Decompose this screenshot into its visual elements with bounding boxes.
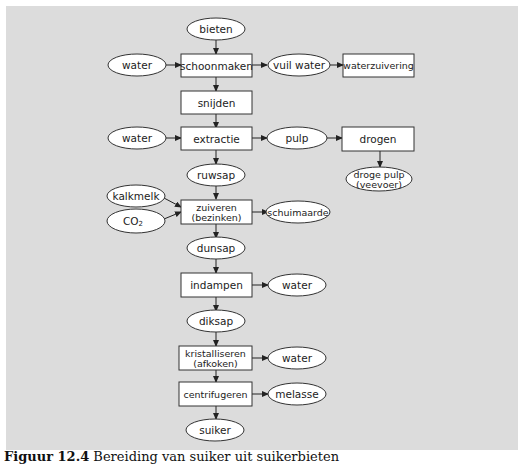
svg-text:schuimaarde: schuimaarde (267, 207, 329, 218)
svg-text:water: water (122, 59, 153, 71)
node-dunsap: dunsap (187, 237, 245, 259)
svg-text:drogen: drogen (360, 133, 397, 145)
svg-text:ruwsap: ruwsap (197, 169, 235, 181)
node-co2: CO2 (107, 209, 165, 233)
svg-text:(bezinken): (bezinken) (192, 212, 242, 223)
svg-text:dunsap: dunsap (197, 242, 236, 254)
node-waterzuivering: waterzuivering (343, 54, 414, 77)
figure-label: Figuur 12.4 (4, 449, 89, 464)
svg-text:bieten: bieten (199, 23, 232, 35)
node-water-input-2: water (108, 127, 166, 149)
svg-text:snijden: snijden (198, 97, 236, 109)
node-schoonmaken: schoonmaken (180, 54, 253, 77)
node-schuimaarde: schuimaarde (266, 201, 330, 223)
node-vuil-water: vuil water (268, 54, 330, 76)
svg-text:melasse: melasse (275, 388, 318, 400)
svg-text:centrifugeren: centrifugeren (183, 389, 247, 400)
svg-text:suiker: suiker (199, 424, 231, 436)
node-pulp: pulp (267, 127, 327, 149)
node-suiker: suiker (186, 419, 244, 441)
node-zuiveren: zuiveren (bezinken) (181, 200, 252, 224)
node-diksap: diksap (187, 310, 245, 332)
node-snijden: snijden (181, 91, 252, 114)
svg-text:waterzuivering: waterzuivering (343, 60, 414, 71)
svg-text:water: water (282, 279, 313, 291)
node-water-input-1: water (108, 54, 166, 76)
node-ruwsap: ruwsap (187, 164, 245, 186)
svg-text:(veevoer): (veevoer) (356, 179, 402, 190)
node-kalkmelk: kalkmelk (107, 185, 165, 207)
node-drogen: drogen (342, 127, 414, 151)
node-bieten: bieten (187, 18, 245, 40)
svg-text:(afkoken): (afkoken) (193, 358, 238, 369)
node-indampen: indampen (181, 273, 252, 297)
node-water-output-3: water (268, 274, 326, 296)
node-droge-pulp: droge pulp (veevoer) (346, 167, 412, 191)
node-extractie: extractie (181, 127, 252, 150)
svg-text:extractie: extractie (193, 133, 240, 145)
svg-text:water: water (122, 132, 153, 144)
node-water-output-4: water (268, 347, 326, 369)
node-melasse: melasse (268, 383, 326, 405)
figure-caption: Figuur 12.4 Bereiding van suiker uit sui… (4, 449, 339, 464)
svg-text:vuil water: vuil water (273, 59, 326, 71)
svg-text:water: water (282, 352, 313, 364)
svg-text:schoonmaken: schoonmaken (180, 60, 253, 72)
svg-text:pulp: pulp (286, 132, 309, 144)
node-centrifugeren: centrifugeren (179, 382, 252, 406)
node-kristalliseren: kristalliseren (afkoken) (179, 346, 252, 370)
svg-text:diksap: diksap (199, 315, 234, 327)
svg-text:indampen: indampen (190, 279, 243, 291)
svg-text:kalkmelk: kalkmelk (112, 190, 160, 202)
figure-caption-text: Bereiding van suiker uit suikerbieten (93, 449, 339, 464)
